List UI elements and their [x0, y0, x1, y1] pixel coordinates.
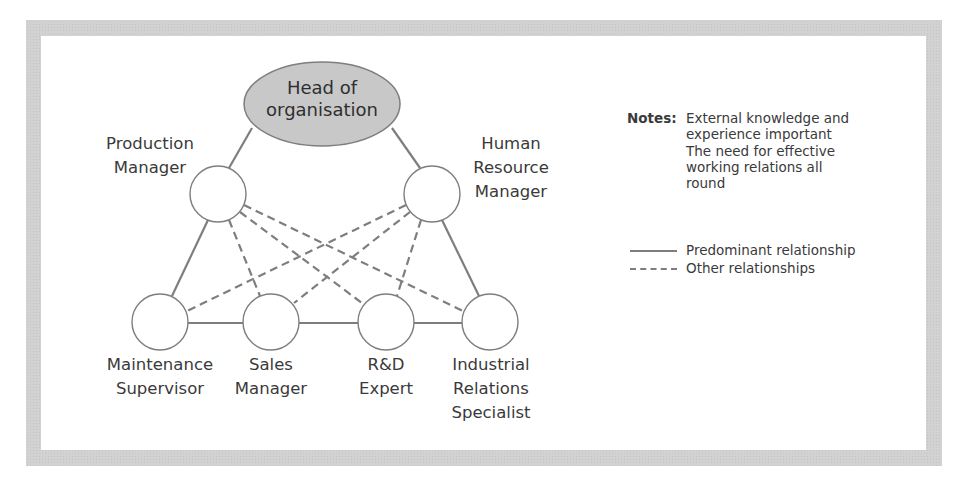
notes-body: External knowledge and experience import… [686, 110, 906, 191]
line-hr-to-industrial [442, 220, 479, 296]
notes-line: experience important [686, 126, 906, 142]
notes-line: round [686, 175, 906, 191]
line-production-to-maintenance [172, 220, 208, 296]
dash-production-to-rd [240, 212, 362, 303]
other-relationship-lines [187, 205, 463, 311]
label-line: organisation [244, 99, 400, 121]
notes-line: working relations all [686, 159, 906, 175]
line-head-to-hr [392, 128, 420, 168]
legend-label: Predominant relationship [686, 241, 856, 259]
rd-expert-node [358, 294, 414, 350]
industrial-relations-specialist-label: Industrial Relations Specialist [446, 353, 536, 425]
dashed-line-icon [630, 268, 677, 270]
label-line: R&D [346, 353, 426, 377]
label-line: Expert [346, 377, 426, 401]
label-line: Manager [226, 377, 316, 401]
sales-manager-label: Sales Manager [226, 353, 316, 401]
label-line: Manager [100, 156, 200, 180]
production-manager-label: Production Manager [100, 132, 200, 180]
notes-line: External knowledge and [686, 110, 906, 126]
label-line: Maintenance [100, 353, 220, 377]
notes-label: Notes: [627, 110, 677, 126]
maintenance-supervisor-node [132, 294, 188, 350]
label-line: Supervisor [100, 377, 220, 401]
industrial-relations-specialist-node [462, 294, 518, 350]
rd-expert-label: R&D Expert [346, 353, 426, 401]
label-line: Resource [470, 156, 552, 180]
maintenance-supervisor-label: Maintenance Supervisor [100, 353, 220, 401]
line-head-to-production [229, 128, 252, 168]
human-resource-manager-node [404, 166, 460, 222]
head-of-organisation-label: Head of organisation [244, 77, 400, 121]
solid-line-icon [630, 250, 677, 252]
notes-line: The need for effective [686, 143, 906, 159]
dash-production-to-sales [229, 220, 260, 296]
label-line: Human [470, 132, 552, 156]
label-line: Manager [470, 180, 552, 204]
label-line: Industrial [446, 353, 536, 377]
label-line: Production [100, 132, 200, 156]
human-resource-manager-label: Human Resource Manager [470, 132, 552, 204]
sales-manager-node [243, 294, 299, 350]
label-line: Specialist [446, 401, 536, 425]
predominant-relationship-lines [172, 128, 479, 323]
label-line: Relations [446, 377, 536, 401]
legend-label: Other relationships [686, 259, 815, 277]
label-line: Head of [244, 77, 400, 99]
label-line: Sales [226, 353, 316, 377]
